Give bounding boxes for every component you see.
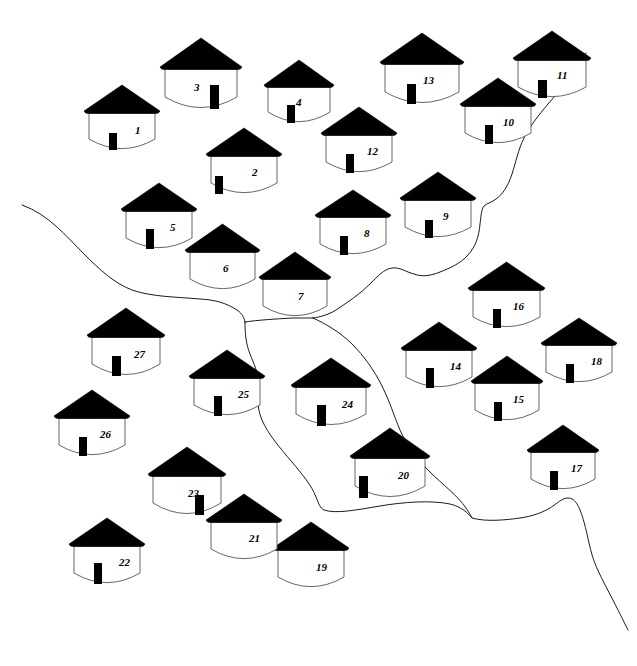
hut-wall-13: [385, 64, 459, 103]
hut-number-label-20: 20: [398, 470, 409, 481]
hut-door-25: [214, 396, 222, 416]
hut-9[interactable]: 9: [399, 172, 477, 242]
hut-number-label-23: 23: [188, 488, 199, 499]
hut-number-label-24: 24: [342, 399, 353, 410]
hut-door-22: [94, 563, 102, 584]
hut-roof-26: [54, 390, 130, 419]
hut-roof-24: [291, 358, 371, 388]
hut-number-label-5: 5: [170, 222, 176, 233]
hut-wall-14: [406, 350, 472, 387]
hut-graphic-20: [349, 428, 431, 502]
hut-number-label-9: 9: [443, 211, 449, 222]
hut-roof-6: [185, 224, 260, 253]
hut-roof-22: [69, 518, 145, 547]
hut-wall-22: [74, 546, 140, 583]
hut-wall-11: [518, 60, 586, 97]
hut-wall-19: [278, 550, 344, 587]
hut-18[interactable]: 18: [540, 318, 618, 387]
hut-roof-20: [350, 428, 430, 459]
hut-door-9: [425, 220, 433, 238]
hut-wall-12: [326, 135, 392, 172]
village-map-canvas: 1234567891011121314151617181920212223242…: [0, 0, 637, 666]
hut-door-4: [287, 105, 295, 123]
hut-wall-7: [263, 279, 327, 316]
hut-8[interactable]: 8: [314, 190, 392, 259]
hut-graphic-3: [159, 38, 243, 113]
hut-door-1: [109, 133, 117, 150]
hut-graphic-13: [379, 33, 465, 108]
hut-door-26: [79, 437, 87, 456]
hut-wall-21: [211, 522, 277, 559]
hut-number-label-22: 22: [119, 557, 130, 568]
hut-1[interactable]: 1: [83, 85, 161, 154]
hut-graphic-1: [83, 85, 161, 154]
hut-graphic-12: [320, 107, 398, 177]
hut-7[interactable]: 7: [258, 252, 332, 321]
hut-wall-8: [320, 217, 386, 254]
hut-number-label-13: 13: [423, 75, 434, 86]
hut-12[interactable]: 12: [320, 107, 398, 177]
hut-25[interactable]: 25: [188, 350, 266, 420]
hut-graphic-24: [290, 358, 372, 430]
hut-23[interactable]: 23: [147, 447, 227, 519]
hut-27[interactable]: 27: [86, 308, 166, 380]
hut-22[interactable]: 22: [68, 518, 146, 588]
hut-door-2: [215, 176, 223, 194]
hut-number-label-26: 26: [100, 429, 111, 440]
hut-graphic-25: [188, 350, 266, 420]
hut-wall-16: [473, 290, 540, 327]
hut-roof-15: [471, 356, 543, 384]
hut-15[interactable]: 15: [470, 356, 544, 425]
hut-19[interactable]: 19: [272, 522, 350, 592]
hut-wall-26: [59, 418, 125, 455]
hut-wall-17: [531, 452, 595, 489]
hut-24[interactable]: 24: [290, 358, 372, 430]
hut-wall-3: [165, 69, 237, 108]
hut-roof-25: [189, 350, 265, 379]
hut-17[interactable]: 17: [526, 425, 600, 494]
hut-number-label-1: 1: [135, 125, 141, 136]
hut-26[interactable]: 26: [53, 390, 131, 460]
hut-roof-23: [148, 447, 226, 477]
hut-number-label-6: 6: [223, 263, 229, 274]
hut-11[interactable]: 11: [512, 31, 592, 102]
hut-door-17: [550, 471, 558, 490]
hut-roof-18: [541, 318, 617, 346]
hut-door-20: [359, 476, 368, 498]
hut-wall-10: [465, 106, 531, 143]
hut-14[interactable]: 14: [400, 322, 478, 392]
hut-roof-27: [87, 308, 165, 338]
hut-number-label-14: 14: [450, 361, 461, 372]
hut-door-8: [340, 236, 348, 255]
hut-door-15: [494, 402, 502, 421]
hut-number-label-10: 10: [503, 117, 514, 128]
hut-door-3: [210, 85, 219, 109]
hut-roof-16: [468, 262, 545, 291]
hut-wall-5: [126, 211, 192, 248]
hut-13[interactable]: 13: [379, 33, 465, 108]
hut-3[interactable]: 3: [159, 38, 243, 113]
hut-roof-4: [264, 60, 334, 88]
hut-graphic-9: [399, 172, 477, 242]
hut-roof-13: [380, 33, 464, 65]
hut-door-27: [112, 356, 121, 376]
hut-6[interactable]: 6: [184, 224, 261, 294]
hut-wall-18: [546, 345, 612, 382]
hut-16[interactable]: 16: [467, 262, 546, 332]
hut-roof-17: [527, 425, 599, 453]
hut-number-label-12: 12: [367, 146, 378, 157]
hut-number-label-15: 15: [513, 394, 524, 405]
hut-door-10: [485, 125, 493, 144]
hut-roof-3: [160, 38, 242, 70]
hut-number-label-21: 21: [249, 533, 260, 544]
hut-graphic-27: [86, 308, 166, 380]
hut-wall-23: [153, 476, 221, 514]
hut-number-label-7: 7: [298, 291, 304, 302]
hut-roof-9: [400, 172, 476, 201]
hut-20[interactable]: 20: [349, 428, 431, 502]
hut-number-label-16: 16: [513, 301, 524, 312]
hut-2[interactable]: 2: [205, 128, 283, 198]
hut-roof-11: [513, 31, 591, 61]
hut-door-18: [566, 364, 574, 383]
hut-number-label-4: 4: [296, 97, 302, 108]
